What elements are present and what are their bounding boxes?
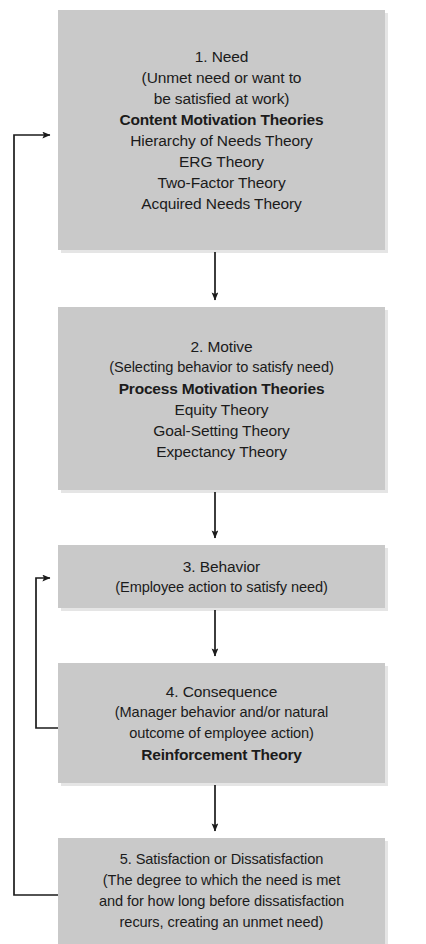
node-consequence-line-3: outcome of employee action) [58,723,385,744]
node-satisfaction-line-3: and for how long before dissatisfaction [58,891,385,912]
node-motive-theory-2: Goal-Setting Theory [58,420,385,441]
node-consequence[interactable]: 4. Consequence (Manager behavior and/or … [58,663,385,783]
node-consequence-line-1: 4. Consequence [58,681,385,702]
node-motive-theory-3: Expectancy Theory [58,441,385,462]
node-need-theory-4: Acquired Needs Theory [58,193,385,214]
node-behavior-line-1: 3. Behavior [58,556,385,577]
node-consequence-line-2: (Manager behavior and/or natural [58,702,385,723]
connector-consequence-feedback-to-behavior [36,578,58,728]
node-need-theory-1: Hierarchy of Needs Theory [58,130,385,151]
node-satisfaction-line-4: recurs, creating an unmet need) [58,912,385,933]
node-need-line-3: be satisfied at work) [58,88,385,109]
node-need-theory-3: Two-Factor Theory [58,172,385,193]
node-satisfaction[interactable]: 5. Satisfaction or Dissatisfaction (The … [58,838,385,944]
node-need[interactable]: 1. Need (Unmet need or want to be satisf… [58,10,385,250]
node-behavior-line-2: (Employee action to satisfy need) [58,577,385,598]
node-need-theory-2: ERG Theory [58,151,385,172]
node-need-line-2: (Unmet need or want to [58,67,385,88]
node-motive-line-2: (Selecting behavior to satisfy need) [58,357,385,378]
node-consequence-heading: Reinforcement Theory [58,744,385,765]
node-need-heading: Content Motivation Theories [58,109,385,130]
node-satisfaction-line-2: (The degree to which the need is met [58,870,385,891]
node-motive[interactable]: 2. Motive (Selecting behavior to satisfy… [58,307,385,490]
node-behavior[interactable]: 3. Behavior (Employee action to satisfy … [58,545,385,608]
node-motive-line-1: 2. Motive [58,336,385,357]
node-motive-theory-1: Equity Theory [58,399,385,420]
node-motive-heading: Process Motivation Theories [58,378,385,399]
flowchart-canvas: 1. Need (Unmet need or want to be satisf… [0,0,426,944]
node-need-line-1: 1. Need [58,46,385,67]
connector-satisfaction-feedback-to-need [14,135,58,895]
node-satisfaction-line-1: 5. Satisfaction or Dissatisfaction [58,849,385,870]
